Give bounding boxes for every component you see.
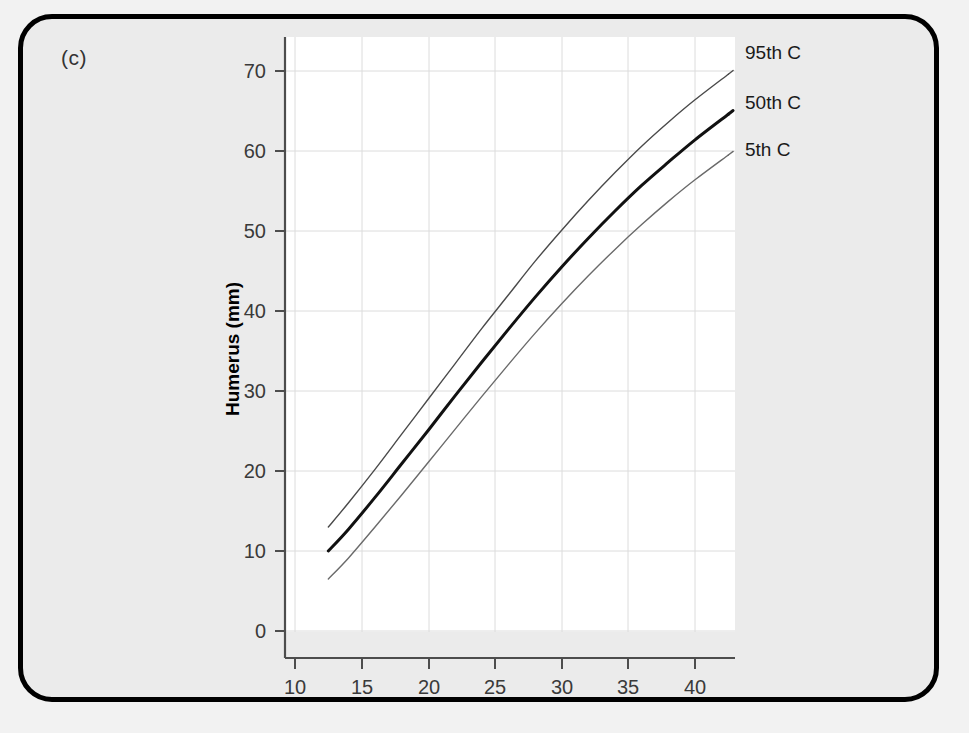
figure-frame: (c): [18, 14, 939, 702]
y-tick-label-20: 20: [244, 460, 266, 482]
x-tick-label-35: 35: [617, 676, 639, 697]
x-tick-label-20: 20: [418, 676, 440, 697]
y-tick-label-0: 0: [255, 620, 266, 642]
x-tick-label-30: 30: [551, 676, 573, 697]
humerus-growth-chart: 0 10 20 30 40 50 60 70 10 15 20 25 30 35…: [23, 19, 934, 697]
y-tick-label-40: 40: [244, 300, 266, 322]
y-tick-label-10: 10: [244, 540, 266, 562]
legend-label-5th: 5th C: [745, 139, 790, 160]
y-tick-label-70: 70: [244, 60, 266, 82]
x-axis-tick-labels: 10 15 20 25 30 35 40: [284, 676, 706, 697]
y-axis-title: Humerus (mm): [222, 282, 243, 416]
x-tick-label-10: 10: [284, 676, 306, 697]
chart-svg: 0 10 20 30 40 50 60 70 10 15 20 25 30 35…: [23, 19, 934, 697]
legend-label-95th: 95th C: [745, 42, 801, 63]
x-tick-label-15: 15: [351, 676, 373, 697]
y-tick-label-60: 60: [244, 140, 266, 162]
x-axis-ticks: [295, 658, 695, 669]
y-tick-label-50: 50: [244, 220, 266, 242]
x-tick-label-25: 25: [484, 676, 506, 697]
legend: 95th C 50th C 5th C: [745, 42, 801, 160]
y-tick-label-30: 30: [244, 380, 266, 402]
y-axis-tick-labels: 0 10 20 30 40 50 60 70: [244, 60, 266, 642]
x-tick-label-40: 40: [684, 676, 706, 697]
y-axis-ticks: [275, 71, 285, 631]
legend-label-50th: 50th C: [745, 92, 801, 113]
plot-background: [285, 37, 735, 632]
